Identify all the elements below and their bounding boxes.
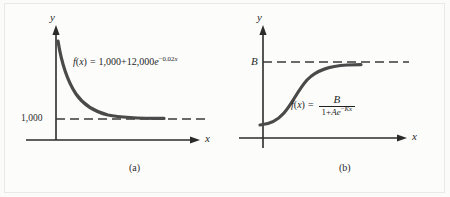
formula-b: f(x)=B1+Ae−Kx xyxy=(291,94,355,117)
y-axis-label-a: y xyxy=(50,12,55,23)
x-axis-b xyxy=(239,134,407,141)
x-axis-label-a: x xyxy=(205,133,210,144)
asymptote-label-a: 1,000 xyxy=(21,114,42,124)
y-axis-b xyxy=(259,25,266,148)
y-axis-label-b: y xyxy=(257,12,262,23)
figure-container: y x 1,000 f(x)=1,000+12,000e−0.02x (a) xyxy=(0,0,450,197)
x-axis-label-b: x xyxy=(412,131,417,142)
panel-a-plot xyxy=(0,0,225,197)
caption-a: (a) xyxy=(129,163,140,173)
caption-b: (b) xyxy=(339,163,351,173)
curve-a xyxy=(58,41,164,118)
asymptote-label-b: B xyxy=(251,56,258,67)
panel-b: y x B f(x)=B1+Ae−Kx (b) xyxy=(213,0,438,197)
formula-a: f(x)=1,000+12,000e−0.02x xyxy=(73,57,177,68)
x-axis-a xyxy=(26,136,200,143)
panel-a: y x 1,000 f(x)=1,000+12,000e−0.02x (a) xyxy=(0,0,225,197)
